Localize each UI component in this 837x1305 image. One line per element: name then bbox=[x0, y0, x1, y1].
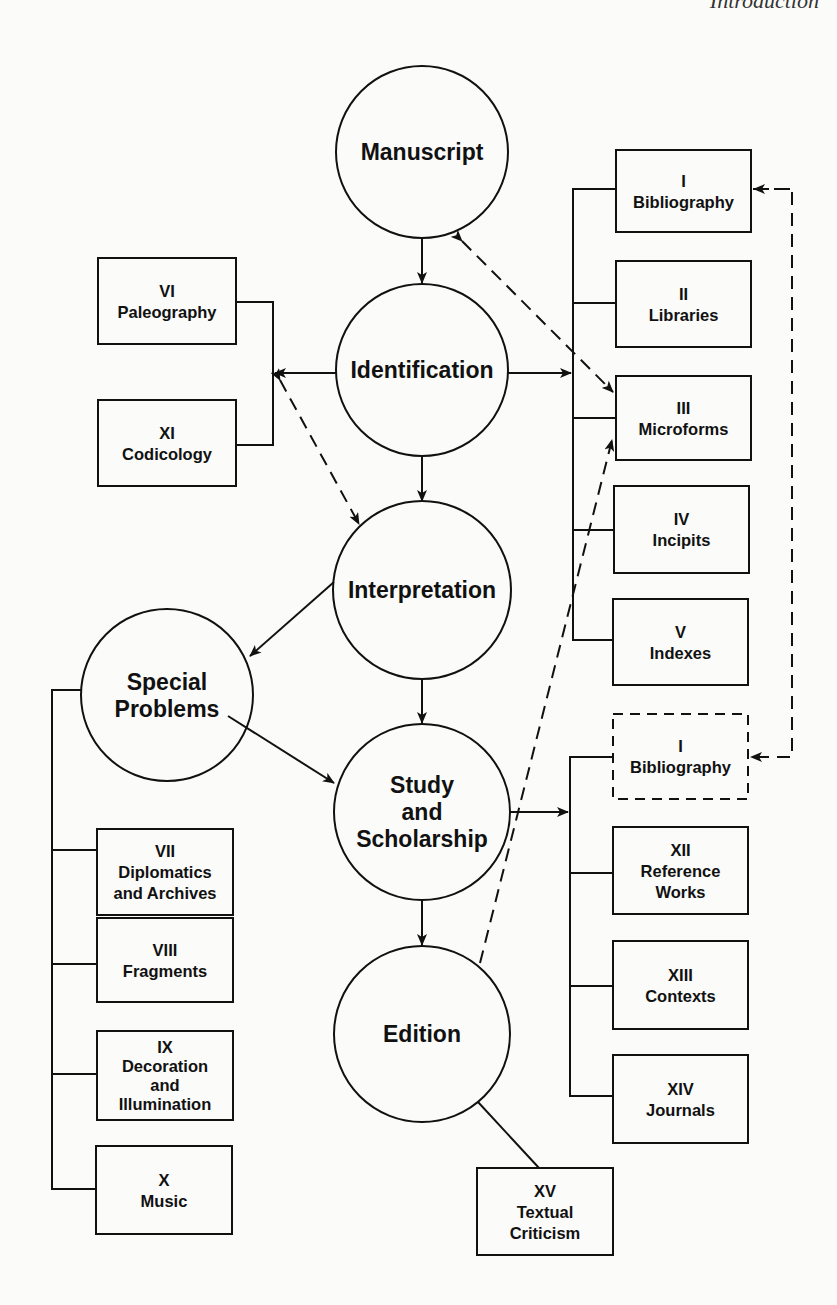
dashed-left-bracket-interpretation bbox=[280, 380, 359, 524]
stage-interpretation: Interpretation bbox=[333, 501, 511, 679]
chapter-numeral: I bbox=[681, 172, 686, 190]
arrow-interpretation-to-special-problems bbox=[250, 582, 334, 656]
stage-label: Study bbox=[390, 772, 454, 798]
stage-study-and-scholarship: StudyandScholarship bbox=[334, 724, 510, 900]
topic-label: Paleography bbox=[117, 303, 217, 321]
chapter-numeral: IX bbox=[157, 1038, 173, 1056]
stage-identification: Identification bbox=[336, 284, 508, 456]
manuscript-studies-flow-diagram: ManuscriptIdentificationInterpretationSp… bbox=[0, 0, 837, 1305]
topic-box-VII: VIIDiplomaticsand Archives bbox=[97, 829, 233, 915]
stage-edition: Edition bbox=[334, 946, 510, 1122]
stage-label: Special bbox=[127, 669, 208, 695]
arrow-special-problems-to-study bbox=[228, 716, 334, 783]
topic-box-VIII: VIIIFragments bbox=[97, 918, 233, 1002]
topic-label: Decoration bbox=[122, 1057, 208, 1075]
topic-box-V: VIndexes bbox=[613, 599, 748, 685]
line-edition-to-textual-criticism bbox=[478, 1102, 539, 1168]
stage-label: Identification bbox=[350, 357, 493, 383]
stage-label: and bbox=[402, 799, 443, 825]
chapter-numeral: VIII bbox=[153, 941, 178, 959]
topic-label: Bibliography bbox=[633, 193, 735, 211]
topic-label: Bibliography bbox=[630, 758, 732, 776]
topic-box-XIV: XIVJournals bbox=[613, 1055, 748, 1143]
topic-label: Reference bbox=[641, 862, 721, 880]
topic-label: and Archives bbox=[113, 884, 216, 902]
topic-label: Codicology bbox=[122, 445, 213, 463]
topic-label: Diplomatics bbox=[118, 863, 212, 881]
chapter-numeral: III bbox=[677, 399, 691, 417]
topic-box-X: XMusic bbox=[96, 1146, 232, 1234]
chapter-numeral: X bbox=[158, 1171, 169, 1189]
chapter-numeral: IV bbox=[674, 510, 690, 528]
chapter-numeral: I bbox=[678, 737, 683, 755]
stage-manuscript: Manuscript bbox=[336, 66, 508, 238]
topic-label: Journals bbox=[646, 1101, 715, 1119]
chapter-numeral: V bbox=[675, 623, 686, 641]
topic-label: Indexes bbox=[650, 644, 711, 662]
topic-box-XII: XIIReferenceWorks bbox=[613, 827, 748, 914]
topic-label: Illumination bbox=[119, 1095, 212, 1113]
topic-label: Contexts bbox=[645, 987, 716, 1005]
dashed-edition-to-microforms bbox=[480, 440, 612, 963]
topic-box-XV: XVTextualCriticism bbox=[477, 1168, 613, 1255]
topic-label: Works bbox=[655, 883, 705, 901]
topic-label: Textual bbox=[517, 1203, 574, 1221]
stage-label: Edition bbox=[383, 1021, 461, 1047]
topic-label: Fragments bbox=[123, 962, 207, 980]
stage-label: Interpretation bbox=[348, 577, 496, 603]
topic-label: Libraries bbox=[649, 306, 719, 324]
topic-label: Music bbox=[141, 1192, 188, 1210]
topic-box-I-dup: IBibliography bbox=[613, 714, 748, 799]
topic-box-VI: VIPaleography bbox=[98, 258, 236, 344]
topic-box-XIII: XIIIContexts bbox=[613, 941, 748, 1029]
topic-label: Criticism bbox=[510, 1224, 581, 1242]
chapter-numeral: XII bbox=[670, 841, 690, 859]
chapter-numeral: XIII bbox=[668, 966, 693, 984]
topic-box-I: IBibliography bbox=[616, 150, 751, 232]
chapter-numeral: XIV bbox=[667, 1080, 694, 1098]
chapter-numeral: II bbox=[679, 285, 688, 303]
stage-label: Scholarship bbox=[356, 826, 488, 852]
topic-label: and bbox=[150, 1076, 179, 1094]
stage-label: Problems bbox=[115, 696, 220, 722]
topic-box-II: IILibraries bbox=[616, 261, 751, 347]
chapter-numeral: VI bbox=[159, 282, 175, 300]
stage-special-problems: SpecialProblems bbox=[81, 609, 253, 781]
bracket-study-references bbox=[570, 757, 613, 1096]
chapter-numeral: XI bbox=[159, 424, 175, 442]
topic-box-III: IIIMicroforms bbox=[616, 376, 751, 460]
topic-label: Microforms bbox=[639, 420, 729, 438]
topic-box-IX: IXDecorationandIllumination bbox=[97, 1031, 233, 1120]
chapter-numeral: XV bbox=[534, 1182, 556, 1200]
dashed-bibliography-loop bbox=[751, 189, 792, 757]
bracket-paleography-codicology bbox=[236, 302, 273, 445]
topic-label: Incipits bbox=[653, 531, 711, 549]
bracket-special-problems bbox=[52, 690, 96, 1189]
topic-box-XI: XICodicology bbox=[98, 400, 236, 486]
stage-label: Manuscript bbox=[361, 139, 484, 165]
chapter-numeral: VII bbox=[155, 842, 175, 860]
topic-box-IV: IVIncipits bbox=[614, 486, 749, 573]
